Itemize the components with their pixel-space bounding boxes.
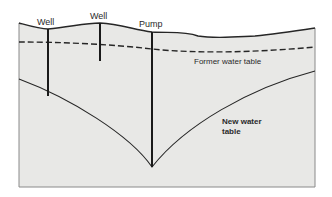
well-label-2: Well: [90, 11, 107, 21]
well-label-1: Well: [37, 17, 54, 27]
pump-label: Pump: [139, 19, 163, 29]
former-water-table-label: Former water table: [194, 57, 262, 66]
ground-section: [19, 23, 315, 187]
new-water-table-label-line2: table: [222, 127, 241, 136]
diagram-canvas: Well Well Pump Former water table New wa…: [0, 0, 332, 197]
new-water-table-label-line1: New water: [222, 117, 262, 126]
